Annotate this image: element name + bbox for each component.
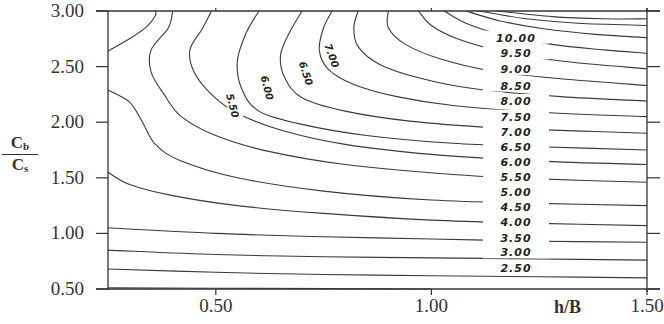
contour-labels-inline: 5.506.006.507.00 xyxy=(223,38,344,122)
contour-line xyxy=(479,11,647,26)
y-label-denominator-sub: s xyxy=(24,162,28,174)
contour-label: 6.00 xyxy=(500,156,531,169)
contour-label: 10.00 xyxy=(496,32,536,45)
inline-contour-label: 6.00 xyxy=(258,70,279,104)
y-label-numerator: C xyxy=(11,133,23,152)
contour-label: 8.50 xyxy=(500,80,531,93)
contour-line xyxy=(108,11,156,51)
x-tick-label: 0.50 xyxy=(186,296,246,315)
svg-text:6.00: 6.00 xyxy=(259,75,276,102)
contour-line xyxy=(108,228,647,243)
inline-contour-label: 5.50 xyxy=(223,88,244,122)
contour-label: 5.50 xyxy=(500,171,531,184)
y-label-numerator-sub: b xyxy=(23,140,29,152)
contour-label: 4.50 xyxy=(499,201,531,214)
contour-label: 3.00 xyxy=(500,246,531,259)
contour-line xyxy=(108,250,647,260)
inline-contour-label: 7.00 xyxy=(321,38,344,73)
x-tick-label: 1.50 xyxy=(617,296,664,315)
inline-contour-label: 6.50 xyxy=(296,56,318,90)
contour-labels-right: 10.009.509.008.508.007.507.006.506.005.5… xyxy=(483,31,549,275)
contour-label: 7.00 xyxy=(500,126,531,139)
contour-label: 8.00 xyxy=(500,95,531,108)
y-axis-label: Cb Cs xyxy=(2,134,38,174)
contour-line xyxy=(108,269,647,278)
contour-label: 4.00 xyxy=(499,216,531,229)
contour-label: 3.50 xyxy=(500,232,531,245)
contour-label: 9.50 xyxy=(500,47,531,60)
y-tick-label: 3.00 xyxy=(4,1,84,20)
axes xyxy=(96,8,660,292)
contour-lines xyxy=(108,11,647,289)
y-tick-label: 0.50 xyxy=(4,279,84,298)
contour-plot: 10.009.509.008.508.007.507.006.506.005.5… xyxy=(0,0,664,324)
contour-label: 6.50 xyxy=(500,141,531,154)
svg-text:6.50: 6.50 xyxy=(297,60,315,87)
x-tick-label: 1.00 xyxy=(401,296,461,315)
tick-marks xyxy=(96,8,660,295)
contour-label: 2.50 xyxy=(500,262,531,275)
svg-text:5.50: 5.50 xyxy=(224,92,241,119)
y-tick-label: 1.00 xyxy=(4,223,84,242)
contour-label: 5.00 xyxy=(500,186,531,199)
contour-label: 7.50 xyxy=(500,111,531,124)
y-label-denominator: C xyxy=(12,155,24,174)
y-tick-label: 2.50 xyxy=(4,57,84,76)
contour-label: 9.00 xyxy=(500,63,531,76)
x-axis-label: h/B xyxy=(554,298,581,316)
contour-line xyxy=(189,11,647,165)
y-tick-label: 2.00 xyxy=(4,112,84,131)
